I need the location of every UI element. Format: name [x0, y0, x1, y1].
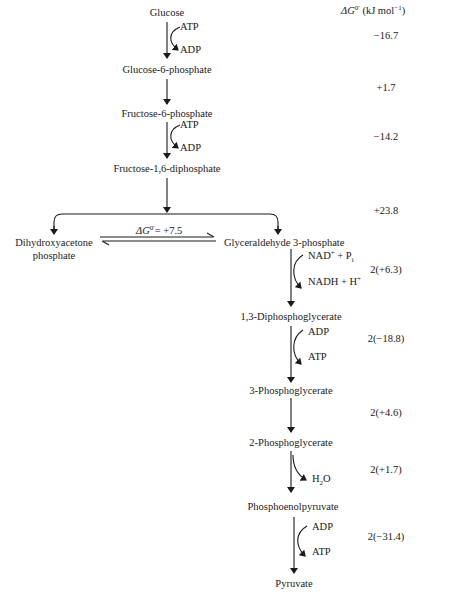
delta-g-phosphoglycerate-mutase: 2(+4.6): [370, 407, 401, 419]
delta-g-hexokinase: −16.7: [374, 30, 398, 42]
metabolite-dihydroxyacetone-phosphate-line2: phosphate: [33, 250, 76, 262]
metabolite-1-3-diphosphoglycerate: 1,3-Diphosphoglycerate: [240, 311, 341, 323]
cofactor-nad-pi: NAD+ + Pi: [308, 250, 354, 262]
delta-g-phosphoglucose-isomerase: +1.7: [376, 82, 395, 94]
metabolite-glyceraldehyde-3-phosphate: Glyceraldehyde 3-phosphate: [224, 237, 344, 249]
unit-suffix: ): [402, 5, 406, 16]
iso-delta-g-value: = +7.5: [155, 225, 183, 236]
delta-g-aldolase: +23.8: [374, 205, 398, 217]
cofactor-atp-3: ATP: [308, 351, 327, 363]
cofactor-adp-1: ADP: [180, 44, 201, 56]
cofactor-atp-4: ATP: [312, 546, 331, 558]
cofactor-adp-3: ADP: [308, 326, 329, 338]
curved-arrow-nad-nadh: [294, 255, 303, 288]
unit-exponent: −1: [394, 4, 401, 12]
metabolite-glucose: Glucose: [150, 7, 184, 19]
metabolite-glucose-6-phosphate: Glucose-6-phosphate: [122, 64, 211, 76]
unit-prefix: (kJ mol: [360, 5, 394, 16]
cofactor-atp-2: ATP: [180, 119, 199, 131]
curved-arrow-atp-adp-2: [171, 125, 180, 148]
cofactor-adp-4: ADP: [312, 521, 333, 533]
metabolite-pyruvate: Pyruvate: [275, 578, 312, 590]
nad-text: NAD: [308, 250, 331, 261]
isomerase-delta-g: ΔG0′= +7.5: [136, 225, 182, 237]
cofactor-h2o: H2O: [312, 473, 331, 485]
delta-g-pyruvate-kinase: 2(−31.4): [368, 531, 405, 543]
pi-text: + P: [335, 250, 352, 261]
cofactor-adp-2: ADP: [180, 142, 201, 154]
pi-subscript: i: [352, 256, 354, 264]
curved-arrow-adp-atp-2: [298, 526, 307, 556]
delta-g-phosphofructokinase: −14.2: [374, 131, 398, 143]
metabolite-fructose-1-6-diphosphate: Fructose-1,6-diphosphate: [113, 163, 220, 175]
cofactor-nadh-h: NADH + H+: [308, 276, 361, 288]
h-charge: +: [357, 275, 361, 283]
cofactor-atp-1: ATP: [180, 21, 199, 33]
metabolite-3-phosphoglycerate: 3-Phosphoglycerate: [249, 385, 332, 397]
iso-delta-g-symbol: ΔG: [136, 225, 150, 236]
h2o-o: O: [323, 473, 331, 484]
h2o-h: H: [312, 473, 320, 484]
metabolite-dihydroxyacetone-phosphate-line1: Dihydroxyacetone: [15, 237, 93, 249]
delta-g-enolase: 2(+1.7): [370, 464, 401, 476]
metabolite-2-phosphoglycerate: 2-Phosphoglycerate: [249, 437, 332, 449]
delta-g-gap-dehydrogenase: 2(+6.3): [370, 264, 401, 276]
delta-g-column-header: ΔG0′ (kJ mol−1): [341, 5, 405, 17]
delta-g-phosphoglycerate-kinase: 2(−18.8): [368, 333, 405, 345]
delta-g-symbol: ΔG: [341, 5, 355, 16]
curved-arrow-h2o: [293, 455, 306, 480]
curved-arrow-adp-atp-1: [294, 330, 303, 364]
metabolite-phosphoenolpyruvate: Phosphoenolpyruvate: [248, 501, 339, 513]
curved-arrow-atp-adp-1: [171, 27, 180, 50]
nadh-text: NADH + H: [308, 276, 357, 287]
